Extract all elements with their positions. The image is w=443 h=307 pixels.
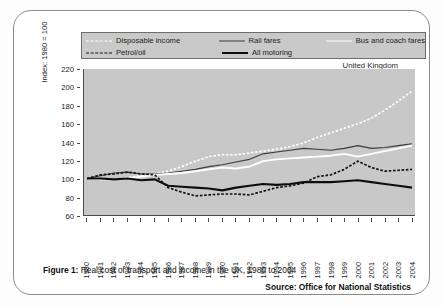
x-tick-mark	[222, 218, 223, 222]
x-tick-label: 2001	[367, 262, 376, 278]
x-tick-label: 1999	[340, 262, 349, 278]
legend-item-petrol-oil: Petrol/oil	[86, 46, 222, 59]
x-tick-mark	[290, 218, 291, 222]
x-tick-mark	[276, 218, 277, 222]
legend-label-rail-fares: Rail fares	[249, 36, 281, 45]
figure-caption: Figure 1: Real cost of transport and inc…	[43, 265, 296, 275]
legend-swatch-petrol-oil-icon	[86, 48, 112, 57]
x-tick-label: 2002	[381, 262, 390, 278]
y-tick-mark	[77, 198, 81, 199]
y-tick-mark	[77, 143, 81, 144]
x-tick-mark	[168, 218, 169, 222]
x-tick-mark	[235, 218, 236, 222]
series-bus-and-coach-fares	[87, 146, 412, 180]
legend-swatch-rail-fares-icon	[219, 36, 245, 45]
y-tick-label: 220	[61, 65, 74, 74]
x-tick-mark	[127, 218, 128, 222]
x-tick-mark	[331, 218, 332, 222]
y-tick-mark	[77, 179, 81, 180]
y-tick-label: 140	[61, 138, 74, 147]
legend-item-all-motoring: All motoring	[222, 46, 332, 59]
y-tick-label: 200	[61, 83, 74, 92]
chart-legend: Disposable income Rail fares Bus and coa…	[81, 32, 426, 59]
figure-card: Disposable income Rail fares Bus and coa…	[13, 10, 430, 295]
series-all-motoring	[87, 179, 412, 191]
x-tick-mark	[195, 218, 196, 222]
legend-label-disposable-income: Disposable income	[116, 36, 180, 45]
legend-label-all-motoring: All motoring	[252, 48, 292, 57]
legend-swatch-bus-and-coach-fares-icon	[326, 36, 352, 45]
x-tick-mark	[371, 218, 372, 222]
legend-swatch-disposable-income-icon	[86, 36, 112, 45]
y-tick-label: 180	[61, 101, 74, 110]
y-tick-label: 60	[66, 212, 74, 221]
legend-row-2: Petrol/oil All motoring	[82, 46, 425, 59]
x-tick-mark	[385, 218, 386, 222]
x-tick-label: 1998	[327, 262, 336, 278]
series-lines	[84, 69, 415, 215]
x-tick-mark	[412, 218, 413, 222]
y-tick-mark	[77, 87, 81, 88]
x-tick-label: 1996	[299, 262, 308, 278]
legend-swatch-all-motoring-icon	[222, 48, 248, 57]
x-tick-mark	[263, 218, 264, 222]
x-tick-mark	[303, 218, 304, 222]
page-background: Disposable income Rail fares Bus and coa…	[0, 0, 443, 307]
legend-label-petrol-oil: Petrol/oil	[116, 48, 146, 57]
legend-label-bus-and-coach-fares: Bus and coach fares	[356, 36, 425, 45]
x-tick-label: 2000	[354, 262, 363, 278]
x-tick-label: 1997	[313, 262, 322, 278]
x-tick-mark	[154, 218, 155, 222]
figure-caption-text: Real cost of transport and income in the…	[78, 265, 296, 275]
figure-source: Source: Office for National Statistics	[265, 282, 411, 292]
x-tick-mark	[249, 218, 250, 222]
x-tick-mark	[86, 218, 87, 222]
y-tick-mark	[77, 106, 81, 107]
plot-canvas	[83, 69, 415, 216]
y-axis-ticks: 6080100120140160180200220	[44, 69, 80, 219]
y-tick-mark	[77, 69, 81, 70]
x-tick-mark	[317, 218, 318, 222]
x-tick-mark	[181, 218, 182, 222]
chart-area: Index: 1980 = 100 6080100120140160180200…	[44, 69, 424, 229]
figure-caption-label: Figure 1:	[43, 265, 78, 275]
y-tick-mark	[77, 124, 81, 125]
x-tick-label: 2004	[408, 262, 417, 278]
y-tick-label: 80	[66, 193, 74, 202]
y-tick-label: 120	[61, 156, 74, 165]
y-tick-mark	[77, 161, 81, 162]
x-tick-mark	[113, 218, 114, 222]
y-tick-mark	[77, 216, 81, 217]
x-tick-mark	[140, 218, 141, 222]
x-tick-mark	[208, 218, 209, 222]
x-tick-label: 2003	[394, 262, 403, 278]
x-tick-mark	[100, 218, 101, 222]
x-tick-mark	[398, 218, 399, 222]
y-tick-label: 160	[61, 120, 74, 129]
y-tick-label: 100	[61, 175, 74, 184]
x-tick-mark	[344, 218, 345, 222]
x-tick-mark	[358, 218, 359, 222]
